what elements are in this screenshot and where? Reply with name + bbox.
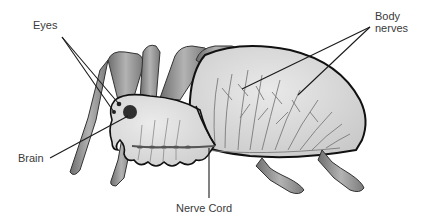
label-body-nerves-line1: Body [375, 10, 408, 22]
abdomen [190, 46, 366, 157]
eyes-leader-2 [62, 37, 114, 112]
label-eyes: Eyes [33, 19, 57, 31]
label-nerve-cord: Nerve Cord [176, 202, 232, 214]
label-body-nerves: Body nerves [375, 10, 408, 34]
label-brain: Brain [18, 152, 44, 164]
label-body-nerves-line2: nerves [375, 22, 408, 34]
spider-illustration [0, 0, 431, 217]
spider-anatomy-diagram: Eyes Brain Nerve Cord Body nerves [0, 0, 431, 217]
brain [123, 105, 137, 119]
